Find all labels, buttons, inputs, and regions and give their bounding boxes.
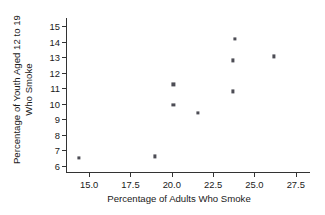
x-tick-label: 20.0: [163, 179, 181, 190]
y-tick-label: 8: [55, 129, 60, 140]
data-point: [78, 156, 81, 159]
y-tick-label: 13: [50, 52, 60, 63]
plot-area: 6789101112131415 15.017.520.022.525.027.…: [66, 20, 309, 172]
data-point: [154, 155, 157, 158]
x-tick-mark: [172, 173, 173, 177]
x-tick-mark: [254, 173, 255, 177]
y-tick-mark: [62, 150, 66, 151]
y-tick-mark: [62, 104, 66, 105]
y-tick-mark: [62, 42, 66, 43]
x-tick-label: 25.0: [245, 179, 263, 190]
x-tick-label: 15.0: [80, 179, 98, 190]
data-point: [231, 90, 234, 93]
data-point: [233, 37, 236, 40]
x-tick-mark: [296, 173, 297, 177]
y-tick-label: 14: [50, 36, 60, 47]
y-tick-label: 7: [55, 145, 60, 156]
y-tick-mark: [62, 73, 66, 74]
x-tick-mark: [130, 173, 131, 177]
data-point: [273, 55, 276, 58]
y-tick-mark: [62, 26, 66, 27]
data-point: [197, 111, 200, 114]
y-tick-label: 12: [50, 67, 60, 78]
y-axis-title-line-2: Who Smoke: [22, 16, 34, 165]
y-tick-label: 10: [50, 98, 60, 109]
y-tick-mark: [62, 166, 66, 167]
x-axis-spine: [66, 172, 310, 173]
y-axis-spine: [66, 18, 67, 172]
y-axis-title: Percentage of Youth Aged 12 to 19 Who Sm…: [0, 0, 44, 180]
data-point: [231, 59, 234, 62]
y-tick-label: 11: [50, 83, 60, 94]
data-point: [172, 83, 175, 86]
y-axis-title-line-1: Percentage of Youth Aged 12 to 19: [10, 16, 21, 165]
x-axis-title: Percentage of Adults Who Smoke: [44, 193, 314, 204]
y-tick-label: 15: [50, 21, 60, 32]
y-tick-mark: [62, 135, 66, 136]
y-tick-label: 9: [55, 114, 60, 125]
y-tick-mark: [62, 88, 66, 89]
x-tick-label: 22.5: [204, 179, 222, 190]
x-tick-label: 27.5: [287, 179, 305, 190]
x-tick-mark: [89, 173, 90, 177]
x-tick-mark: [213, 173, 214, 177]
y-tick-label: 6: [55, 160, 60, 171]
y-tick-mark: [62, 119, 66, 120]
x-tick-label: 17.5: [121, 179, 139, 190]
y-tick-mark: [62, 57, 66, 58]
scatter-plot-figure: Percentage of Youth Aged 12 to 19 Who Sm…: [0, 0, 325, 215]
data-point: [172, 104, 175, 107]
